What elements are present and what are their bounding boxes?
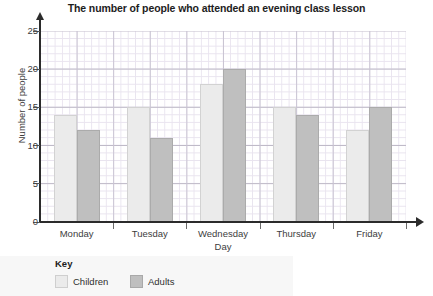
- y-tick-label: 0: [12, 216, 38, 227]
- bar-monday-children: [54, 115, 77, 222]
- y-tick-label: 25: [12, 25, 38, 36]
- legend-label-children: Children: [73, 276, 108, 287]
- x-axis-title: Day: [40, 241, 406, 252]
- bar-thursday-children: [273, 107, 296, 222]
- legend-entry-adults: Adults: [130, 275, 174, 288]
- bar-tuesday-children: [127, 107, 150, 222]
- x-axis-line: [39, 221, 418, 223]
- legend-swatch-children-icon: [55, 275, 68, 288]
- x-tick-label-friday: Friday: [324, 228, 414, 239]
- bar-thursday-adults: [296, 115, 319, 222]
- plot-area: [40, 31, 406, 222]
- y-tick-label: 5: [12, 178, 38, 189]
- bar-tuesday-adults: [150, 138, 173, 222]
- legend-entry-children: Children: [55, 275, 108, 288]
- bar-friday-children: [346, 130, 369, 222]
- y-tick-label: 15: [12, 101, 38, 112]
- chart-legend: Key Children Adults: [0, 256, 293, 296]
- bar-wednesday-children: [200, 84, 223, 222]
- bar-monday-adults: [77, 130, 100, 222]
- y-tick-label: 10: [12, 140, 38, 151]
- y-tick-label: 20: [12, 63, 38, 74]
- bar-friday-adults: [369, 107, 392, 222]
- legend-swatch-adults-icon: [130, 275, 143, 288]
- legend-label-adults: Adults: [148, 276, 174, 287]
- x-axis-arrow-icon: [416, 217, 424, 227]
- y-axis-line: [39, 18, 41, 223]
- y-axis-arrow-icon: [36, 12, 44, 20]
- bar-wednesday-adults: [223, 69, 246, 222]
- chart-title: The number of people who attended an eve…: [0, 2, 433, 14]
- legend-title: Key: [55, 258, 72, 269]
